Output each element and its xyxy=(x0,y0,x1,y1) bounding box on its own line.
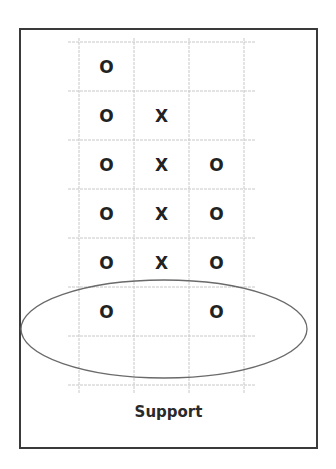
x-marker: X xyxy=(155,106,168,126)
o-marker: O xyxy=(209,204,223,224)
o-marker: O xyxy=(209,155,223,175)
o-marker: O xyxy=(99,155,113,175)
x-marker: X xyxy=(155,204,168,224)
o-marker: O xyxy=(209,253,223,273)
point-and-figure-chart: OOXOXOOXOOXOOO xyxy=(0,0,336,469)
o-marker: O xyxy=(99,106,113,126)
x-marker: X xyxy=(155,155,168,175)
o-marker: O xyxy=(99,302,113,322)
o-marker: O xyxy=(209,302,223,322)
o-marker: O xyxy=(99,204,113,224)
support-ellipse-annotation xyxy=(21,280,307,378)
chart-caption: Support xyxy=(19,403,318,421)
o-marker: O xyxy=(99,57,113,77)
x-marker: X xyxy=(155,253,168,273)
o-marker: O xyxy=(99,253,113,273)
